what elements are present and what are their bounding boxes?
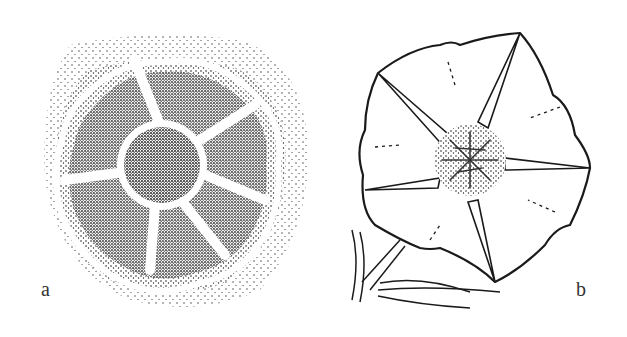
panel-b-label: b bbox=[576, 278, 586, 301]
panel-a-illustration bbox=[0, 0, 627, 337]
panel-a-label: a bbox=[41, 278, 50, 301]
figure: a b bbox=[0, 0, 627, 337]
